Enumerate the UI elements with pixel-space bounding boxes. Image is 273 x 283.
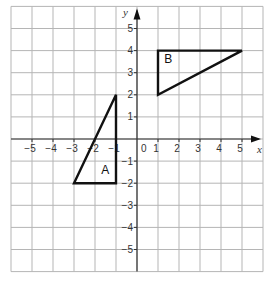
- x-tick-label: −4: [45, 143, 57, 154]
- y-tick-label: 3: [127, 67, 133, 78]
- axes: [11, 8, 261, 271]
- coordinate-grid: −5−4−3−2−101234554321−1−2−3−4−5 AB x y: [0, 0, 273, 283]
- triangle-label-b: B: [164, 52, 172, 66]
- y-tick-label: 5: [127, 23, 133, 34]
- x-axis-label: x: [256, 143, 262, 155]
- y-tick-label: −3: [122, 200, 134, 211]
- x-tick-label: −3: [66, 143, 78, 154]
- x-tick-label: 4: [216, 143, 222, 154]
- y-tick-label: 2: [127, 89, 133, 100]
- y-axis-arrow-icon: [134, 8, 141, 19]
- x-tick-label: −5: [24, 143, 36, 154]
- y-tick-label: −1: [122, 156, 134, 167]
- x-tick-label: 2: [174, 143, 180, 154]
- x-tick-label: 0: [141, 143, 147, 154]
- y-tick-label: −5: [122, 244, 134, 255]
- x-tick-label: 1: [153, 143, 159, 154]
- triangle-label-a: A: [101, 163, 109, 177]
- y-tick-label: 1: [127, 111, 133, 122]
- x-axis-arrow-icon: [251, 136, 261, 143]
- y-tick-label: −4: [122, 222, 134, 233]
- y-axis-label: y: [122, 6, 128, 18]
- y-tick-label: 4: [127, 45, 133, 56]
- x-tick-label: 5: [237, 143, 243, 154]
- x-tick-label: −1: [108, 143, 120, 154]
- x-tick-label: 3: [195, 143, 201, 154]
- y-tick-label: −2: [122, 178, 134, 189]
